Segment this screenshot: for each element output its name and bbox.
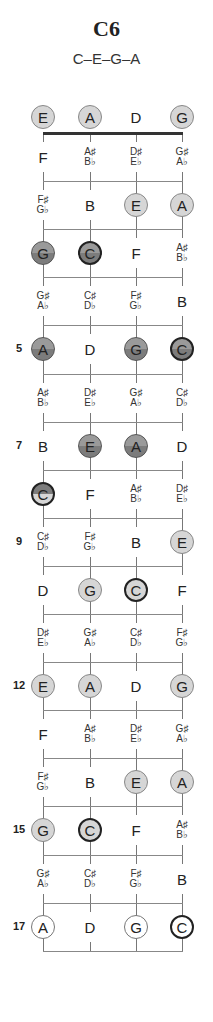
note-cell: G — [28, 815, 58, 845]
note-cell: F♯G♭ — [28, 767, 58, 797]
enharmonic-note: D♯E♭ — [130, 147, 142, 167]
chord-tone-marker: E — [31, 674, 55, 698]
chord-tone-marker: E — [31, 105, 55, 129]
flat-name: B♭ — [176, 830, 188, 840]
note-cell: G — [75, 575, 105, 605]
flat-name: E♭ — [37, 638, 49, 648]
flat-name: D♭ — [176, 398, 188, 408]
fret-line — [43, 662, 183, 663]
root-note-marker: C — [124, 578, 148, 602]
note-name: F — [131, 823, 140, 838]
note-cell: G — [121, 334, 151, 364]
enharmonic-note: C♯D♭ — [84, 869, 96, 889]
enharmonic-note: A♯B♭ — [176, 820, 188, 840]
flat-name: A♭ — [176, 157, 188, 167]
enharmonic-note: G♯A♭ — [84, 628, 97, 648]
note-cell: B — [167, 864, 197, 894]
enharmonic-note: A♯B♭ — [84, 147, 96, 167]
chord-tone-marker: E — [78, 434, 102, 458]
note-cell: D♯E♭ — [75, 383, 105, 413]
flat-name: E♭ — [84, 398, 96, 408]
chord-tone-marker: A — [78, 105, 102, 129]
note-cell: G — [167, 102, 197, 132]
fret-line — [43, 470, 183, 471]
note-cell: D♯E♭ — [121, 142, 151, 172]
note-cell: B — [28, 431, 58, 461]
note-name: B — [131, 535, 141, 550]
flat-name: A♭ — [130, 398, 142, 408]
enharmonic-note: A♯B♭ — [130, 484, 142, 504]
note-cell: G — [167, 671, 197, 701]
note-cell: E — [28, 102, 58, 132]
note-name: F — [85, 487, 94, 502]
note-cell: C — [75, 815, 105, 845]
flat-name: G♭ — [37, 205, 50, 215]
note-cell: F — [121, 238, 151, 268]
enharmonic-note: D♯E♭ — [176, 484, 188, 504]
enharmonic-note: C♯D♭ — [130, 628, 142, 648]
note-cell: A♯B♭ — [167, 238, 197, 268]
note-cell: C♯D♭ — [121, 623, 151, 653]
note-name: F — [38, 727, 47, 742]
enharmonic-note: A♯B♭ — [84, 724, 96, 744]
note-name: D — [177, 439, 188, 454]
note-cell: E — [28, 671, 58, 701]
note-cell: G♯A♭ — [28, 286, 58, 316]
fret-line — [43, 422, 183, 423]
flat-name: D♭ — [84, 301, 96, 311]
note-cell: D — [121, 102, 151, 132]
chord-tone-marker: G — [31, 818, 55, 842]
note-cell: F — [121, 815, 151, 845]
chord-tone-marker: A — [78, 674, 102, 698]
flat-name: D♭ — [37, 542, 49, 552]
enharmonic-note: F♯G♭ — [130, 291, 143, 311]
flat-name: G♭ — [84, 542, 97, 552]
note-cell: D♯E♭ — [28, 623, 58, 653]
flat-name: A♭ — [37, 301, 49, 311]
note-cell: D — [167, 431, 197, 461]
fret-line — [43, 614, 183, 615]
note-cell: B — [121, 527, 151, 557]
note-cell: F♯G♭ — [121, 864, 151, 894]
fret-line — [43, 710, 183, 711]
chord-tone-marker: A — [170, 770, 194, 794]
note-cell: A♯B♭ — [75, 142, 105, 172]
note-name: B — [177, 872, 187, 887]
chord-tone-marker: E — [124, 193, 148, 217]
enharmonic-note: F♯G♭ — [176, 628, 189, 648]
fret-number: 5 — [8, 342, 30, 354]
note-cell: B — [167, 286, 197, 316]
note-name: D — [131, 679, 142, 694]
note-cell: B — [75, 767, 105, 797]
enharmonic-note: G♯A♭ — [176, 724, 189, 744]
note-name: B — [38, 439, 48, 454]
chord-tone-marker: A — [124, 434, 148, 458]
chord-tone-marker: G — [170, 105, 194, 129]
note-cell: A — [75, 671, 105, 701]
flat-name: B♭ — [176, 253, 188, 263]
note-name: D — [85, 342, 96, 357]
enharmonic-note: G♯A♭ — [37, 291, 50, 311]
note-cell: D — [121, 671, 151, 701]
fret-line — [43, 951, 183, 952]
flat-name: G♭ — [37, 782, 50, 792]
note-name: D — [38, 583, 49, 598]
note-cell: A — [121, 431, 151, 461]
note-cell: C♯D♭ — [75, 286, 105, 316]
chord-tone-marker: A — [31, 915, 55, 939]
note-cell: C — [121, 575, 151, 605]
root-note-marker: C — [78, 241, 102, 265]
note-cell: C♯D♭ — [28, 527, 58, 557]
note-cell: D♯E♭ — [121, 719, 151, 749]
note-cell: A♯B♭ — [75, 719, 105, 749]
note-cell: D — [75, 334, 105, 364]
chord-tone-marker: G — [170, 674, 194, 698]
note-cell: G — [28, 238, 58, 268]
note-cell: A — [75, 102, 105, 132]
flat-name: A♭ — [176, 734, 188, 744]
fret-line — [43, 903, 183, 904]
note-cell: C — [167, 912, 197, 942]
note-cell: E — [121, 190, 151, 220]
nut — [43, 132, 183, 135]
flat-name: B♭ — [84, 734, 96, 744]
